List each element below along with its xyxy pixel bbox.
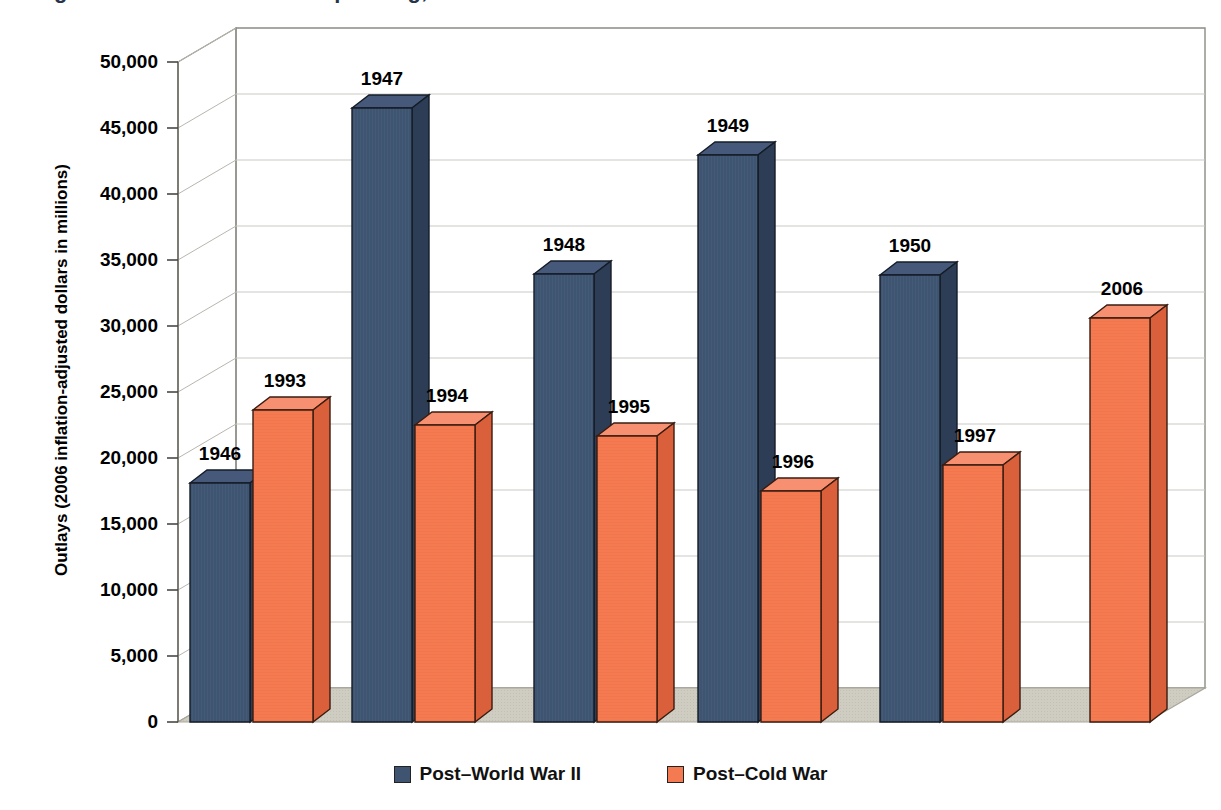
bar-label-1995: 1995 bbox=[589, 396, 669, 418]
legend-swatch-blue bbox=[394, 766, 411, 783]
bar-label-1994: 1994 bbox=[407, 385, 487, 407]
bar-chart: 50,000 45,000 40,000 35,000 30,000 25,00… bbox=[0, 0, 1221, 810]
bar-label-1993: 1993 bbox=[245, 370, 325, 392]
bar-1996[interactable] bbox=[761, 478, 838, 722]
bar-label-1947: 1947 bbox=[342, 68, 422, 90]
bar-label-1997: 1997 bbox=[935, 425, 1015, 447]
legend-swatch-orange bbox=[667, 766, 684, 783]
bar-label-1949: 1949 bbox=[688, 115, 768, 137]
bar-label-1946: 1946 bbox=[180, 443, 260, 465]
legend-label-post-world-war-ii: Post–World War II bbox=[420, 763, 582, 785]
bar-label-1950: 1950 bbox=[870, 235, 950, 257]
bar-1994[interactable] bbox=[415, 412, 492, 722]
legend-item-post-cold-war[interactable]: Post–Cold War bbox=[667, 763, 827, 785]
y-axis-title: Outlays (2006 inflation-adjusted dollars… bbox=[52, 50, 72, 690]
bar-2006[interactable] bbox=[1090, 305, 1167, 722]
bar-1997[interactable] bbox=[943, 452, 1020, 722]
bar-label-1996: 1996 bbox=[753, 451, 833, 473]
bar-1995[interactable] bbox=[597, 423, 674, 722]
chart-legend: Post–World War II Post–Cold War bbox=[0, 757, 1221, 791]
bar-label-2006: 2006 bbox=[1082, 278, 1162, 300]
bar-1993[interactable] bbox=[253, 397, 330, 722]
legend-label-post-cold-war: Post–Cold War bbox=[693, 763, 827, 785]
bar-label-1948: 1948 bbox=[524, 234, 604, 256]
legend-item-post-world-war-ii[interactable]: Post–World War II bbox=[394, 763, 582, 785]
y-tick-0: 0 bbox=[40, 711, 158, 733]
